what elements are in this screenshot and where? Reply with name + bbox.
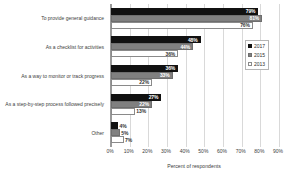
bar-2017[interactable]: 4% xyxy=(111,122,118,129)
x-axis-tick-label: 30% xyxy=(161,148,171,155)
category-label: To provide general guidance xyxy=(0,15,104,21)
legend-swatch-icon-2013 xyxy=(248,62,252,66)
bar-2017[interactable]: 79% xyxy=(111,8,258,15)
bar-value-label: 36% xyxy=(165,51,175,57)
x-axis-tick-label: 70% xyxy=(236,148,246,155)
x-axis-tick-label: 40% xyxy=(180,148,190,155)
bar-value-label: 5% xyxy=(121,130,128,136)
category-label: Other xyxy=(0,130,104,136)
x-axis-ticks: 0%10%20%30%40%50%60%70%80%90% xyxy=(110,148,278,158)
bar-line: 7% xyxy=(111,136,278,143)
bar-value-label: 33% xyxy=(160,72,170,78)
bar-value-label: 7% xyxy=(125,137,132,143)
bar-line: 4% xyxy=(111,122,278,129)
bar-2015[interactable]: 81% xyxy=(111,15,262,22)
legend-label-2015: 2015 xyxy=(254,52,265,58)
x-axis-tick-label: 10% xyxy=(124,148,134,155)
bar-2013[interactable]: 13% xyxy=(111,108,135,115)
bar-value-label: 79% xyxy=(246,8,256,14)
legend: 2017 2015 2013 xyxy=(245,40,269,70)
bar-value-label: 36% xyxy=(165,65,175,71)
bar-2015[interactable]: 22% xyxy=(111,101,152,108)
x-axis-tick-label: 90% xyxy=(273,148,283,155)
bar-value-label: 76% xyxy=(240,22,250,28)
x-axis-tick-label: 60% xyxy=(217,148,227,155)
bar-line: 13% xyxy=(111,108,278,115)
bar-2013[interactable]: 22% xyxy=(111,79,152,86)
bar-2017[interactable]: 27% xyxy=(111,94,161,101)
bar-line: 81% xyxy=(111,15,278,22)
bar-2015[interactable]: 44% xyxy=(111,43,193,50)
bar-rows: 79%81%76%48%44%36%36%33%22%27%22%13%4%5%… xyxy=(111,4,278,147)
bar-2013[interactable]: 76% xyxy=(111,22,253,29)
x-axis-tick-label: 0% xyxy=(106,148,113,155)
category-label: As a way to monitor or track progress xyxy=(0,73,104,79)
legend-swatch-icon-2017 xyxy=(248,44,252,48)
bar-line: 27% xyxy=(111,94,278,101)
bar-value-label: 81% xyxy=(249,15,259,21)
bar-value-label: 22% xyxy=(139,79,149,85)
bar-2013[interactable]: 7% xyxy=(111,136,124,143)
bar-value-label: 27% xyxy=(149,94,159,100)
plot-area: 79%81%76%48%44%36%36%33%22%27%22%13%4%5%… xyxy=(110,4,278,147)
bar-2015[interactable]: 5% xyxy=(111,129,120,136)
legend-item-2017[interactable]: 2017 xyxy=(248,43,265,49)
x-axis-tick-label: 80% xyxy=(254,148,264,155)
bar-2017[interactable]: 48% xyxy=(111,36,201,43)
legend-item-2013[interactable]: 2013 xyxy=(248,61,265,67)
bar-line: 22% xyxy=(111,79,278,86)
bar-line: 5% xyxy=(111,129,278,136)
bar-value-label: 44% xyxy=(180,44,190,50)
category-label: As a checklist for activities xyxy=(0,44,104,50)
bar-line: 22% xyxy=(111,101,278,108)
legend-swatch-icon-2015 xyxy=(248,53,252,57)
bar-value-label: 48% xyxy=(188,37,198,43)
bar-group: 79%81%76% xyxy=(111,4,278,33)
x-axis-tick-label: 20% xyxy=(142,148,152,155)
bar-value-label: 4% xyxy=(119,123,126,129)
bar-group: 4%5%7% xyxy=(111,118,278,147)
legend-item-2015[interactable]: 2015 xyxy=(248,52,265,58)
bar-line: 79% xyxy=(111,8,278,15)
x-axis-tick-label: 50% xyxy=(198,148,208,155)
bar-chart: 79%81%76%48%44%36%36%33%22%27%22%13%4%5%… xyxy=(0,0,285,177)
bar-2015[interactable]: 33% xyxy=(111,72,173,79)
bar-value-label: 13% xyxy=(136,108,146,114)
legend-label-2017: 2017 xyxy=(254,43,265,49)
bar-group: 27%22%13% xyxy=(111,90,278,119)
bar-2013[interactable]: 36% xyxy=(111,50,178,57)
gridline xyxy=(279,4,280,147)
x-axis-title: Percent of respondents xyxy=(110,163,278,170)
bar-line: 33% xyxy=(111,72,278,79)
bar-line: 76% xyxy=(111,22,278,29)
legend-label-2013: 2013 xyxy=(254,61,265,67)
category-label: As a step-by-step process followed preci… xyxy=(0,101,104,107)
bar-value-label: 22% xyxy=(139,101,149,107)
bar-2017[interactable]: 36% xyxy=(111,65,178,72)
